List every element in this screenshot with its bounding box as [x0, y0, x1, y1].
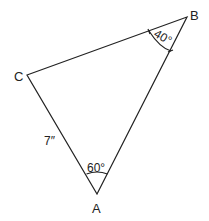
vertex-label-c: C — [14, 69, 23, 84]
vertex-label-b: B — [190, 8, 199, 23]
vertex-label-a: A — [92, 201, 101, 216]
angle-label-b: 40° — [152, 26, 175, 47]
side-label-ac: 7″ — [44, 134, 56, 148]
angle-label-a: 60° — [87, 161, 105, 175]
triangle-diagram: C B A 7″ 60° 40° — [0, 0, 209, 221]
